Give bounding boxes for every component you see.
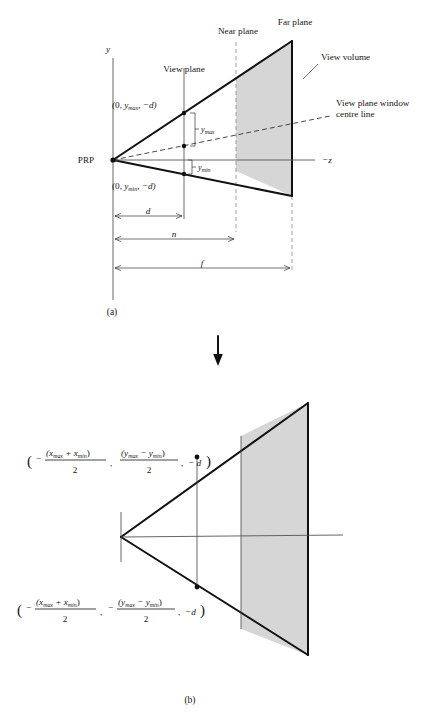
- prp-point: [110, 157, 115, 162]
- perspective-view-volume-figure: y −z PRP (0, ymax, −d): [0, 0, 440, 712]
- point-top-tail: , −d): [138, 100, 156, 110]
- window-bottom-point-b: [195, 585, 200, 590]
- y-min-label: ymin: [197, 163, 211, 173]
- formula-bottom-num1: (xmax + xmin): [36, 597, 80, 608]
- centre-line-label-2: centre line: [336, 109, 375, 119]
- dimension-f-label: f: [201, 258, 205, 268]
- dimension-f: f: [115, 258, 290, 271]
- formula-top-num2: (ymax − ymin): [121, 448, 165, 459]
- point-top-open: (0,: [112, 100, 124, 110]
- formula-bottom-num2: (ymax − ymin): [118, 597, 162, 608]
- y-min-brace: [188, 160, 196, 174]
- dimension-d-label: d: [146, 206, 151, 216]
- formula-top-close-paren: ): [206, 453, 211, 470]
- formula-top: ( − (xmax + xmin) 2 , (ymax − ymin) 2 , …: [27, 448, 211, 475]
- formula-bottom-den1: 2: [63, 614, 68, 624]
- panel-b: ( − (xmax + xmin) 2 , (ymax − ymin) 2 , …: [17, 403, 343, 706]
- y-max-brace: [190, 113, 199, 146]
- window-centre-point: [182, 144, 186, 148]
- view-volume-leader: [303, 64, 318, 79]
- view-plane-label: View plane: [163, 64, 205, 74]
- window-top-point: [182, 111, 186, 115]
- formula-top-comma2: ,: [181, 458, 183, 468]
- formula-top-den2: 2: [147, 465, 152, 475]
- far-plane-label: Far plane: [278, 17, 312, 27]
- formula-bottom-comma2: ,: [178, 607, 180, 617]
- window-bottom-point: [182, 172, 186, 176]
- formula-bottom-y-sign: −: [108, 603, 113, 613]
- y-max-label: ymax: [200, 125, 215, 135]
- view-volume-label: View volume: [321, 52, 370, 62]
- formula-bottom-minus1: −: [26, 603, 31, 613]
- centre-line-label-1: View plane window: [336, 98, 410, 108]
- point-bottom-coordinate-label: (0, ymin, −d): [112, 181, 156, 192]
- y-axis-label: y: [105, 44, 111, 54]
- formula-bottom-open-paren: (: [17, 602, 22, 619]
- formula-bottom-comma1: ,: [100, 607, 102, 617]
- formula-bottom-close-paren: ): [200, 602, 205, 619]
- view-volume-shading-b: [241, 403, 308, 655]
- svg-text:(0, ymax, −d): (0, ymax, −d): [112, 100, 157, 111]
- formula-top-den1: 2: [73, 465, 78, 475]
- view-volume-shading-a: [236, 41, 292, 196]
- negative-z-label: −z: [322, 155, 332, 165]
- dimension-d: d: [115, 206, 184, 219]
- dimension-n-label: n: [172, 229, 177, 239]
- formula-bottom-minus2: −d: [185, 607, 196, 617]
- panel-a-caption: (a): [107, 307, 118, 318]
- centre-axis-b: [121, 535, 343, 537]
- prp-label: PRP: [78, 155, 94, 165]
- formula-top-num1: (xmax + xmin): [46, 448, 90, 459]
- point-bottom-open: (0,: [112, 181, 124, 191]
- formula-bottom-den2: 2: [144, 614, 149, 624]
- point-top-sub: max: [128, 105, 138, 111]
- panel-a: y −z PRP (0, ymax, −d): [78, 17, 410, 318]
- point-bottom-sub: min: [128, 186, 137, 192]
- formula-top-minus2: − d: [188, 458, 201, 468]
- near-plane-label: Near plane: [218, 26, 258, 36]
- dimension-n: n: [115, 229, 234, 242]
- formula-top-open-paren: (: [27, 453, 32, 470]
- down-arrow: [213, 336, 223, 366]
- svg-text:(0, ymin, −d): (0, ymin, −d): [112, 181, 156, 192]
- panel-b-caption: (b): [184, 695, 195, 706]
- formula-top-comma1: ,: [110, 458, 112, 468]
- formula-bottom: ( − (xmax + xmin) 2 , − (ymax − ymin) 2 …: [17, 597, 205, 624]
- point-top-coordinate-label: (0, ymax, −d): [112, 100, 157, 111]
- formula-top-minus1: −: [36, 454, 41, 464]
- point-bottom-tail: , −d): [137, 181, 155, 191]
